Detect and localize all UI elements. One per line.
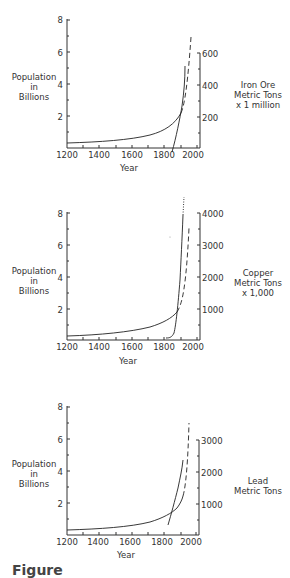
svg-text:1000: 1000 bbox=[201, 500, 223, 510]
lead-line bbox=[168, 460, 183, 525]
population-line bbox=[67, 496, 183, 530]
svg-text:6: 6 bbox=[58, 435, 63, 445]
svg-text:8: 8 bbox=[58, 402, 63, 412]
svg-text:2000: 2000 bbox=[180, 537, 202, 547]
left-axis-label: PopulationinBillions bbox=[10, 459, 58, 489]
right-axis-label: LeadMetric Tons bbox=[230, 476, 286, 496]
svg-text:1600: 1600 bbox=[119, 537, 141, 547]
svg-text:2: 2 bbox=[58, 499, 63, 509]
svg-text:2000: 2000 bbox=[201, 468, 223, 478]
svg-text:1400: 1400 bbox=[87, 537, 109, 547]
svg-text:4: 4 bbox=[58, 467, 63, 477]
svg-text:1200: 1200 bbox=[56, 537, 78, 547]
figure-caption: Figure bbox=[12, 563, 63, 577]
population-projection-line bbox=[183, 423, 189, 496]
svg-text:3000: 3000 bbox=[201, 436, 223, 446]
x-axis-label: Year bbox=[116, 550, 136, 560]
svg-text:1800: 1800 bbox=[151, 537, 173, 547]
